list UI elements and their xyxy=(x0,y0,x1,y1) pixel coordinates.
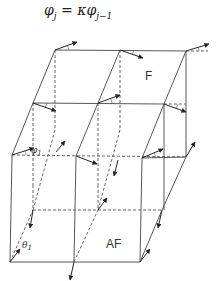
ferromagnetic-label: F xyxy=(145,69,152,83)
spin-vectors-middle xyxy=(12,141,195,176)
spin-vectors-top xyxy=(33,42,209,112)
top-plane-edges xyxy=(33,50,186,210)
hidden-edges-top xyxy=(33,50,120,185)
theta-angle-label: θ1 xyxy=(22,240,32,252)
spin-lattice-diagram: F AF φ1 θ1 xyxy=(0,0,221,281)
antiferromagnetic-label: AF xyxy=(106,237,121,251)
